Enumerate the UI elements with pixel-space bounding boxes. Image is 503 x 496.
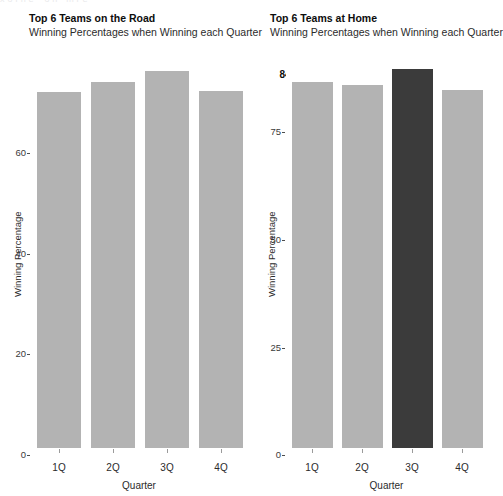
x-axis-title-home: Quarter [286,480,487,491]
x-tick-label-road-1q: 1Q [37,462,81,473]
y-tick-label-home-1: 25 [258,342,281,353]
bar-road-1q[interactable] [37,92,81,448]
bar-home-4q[interactable] [442,90,483,448]
y-tick-label-road-0: 0 [6,449,26,460]
chart-subtitle-home: Winning Percentages when Winning each Qu… [270,25,503,40]
x-tick-label-home-3q: 3Q [391,462,433,473]
x-tick-label-road-3q: 3Q [145,462,189,473]
y-tick-label-home-2: 50 [258,234,281,245]
chart-subtitle-road: Winning Percentages when Winning each Qu… [29,25,262,40]
bar-road-4q[interactable] [199,91,243,448]
x-tick-label-home-4q: 4Q [441,462,483,473]
chart-panel-road: Top 6 Teams on the Road Winning Percenta… [0,7,250,496]
x-tick-label-home-2q: 2Q [341,462,383,473]
bar-series-home [286,51,487,448]
x-tick-label-road-2q: 2Q [91,462,135,473]
plot-area-road [31,51,247,448]
y-tick-mark-home-2 [282,240,285,241]
bar-home-2q[interactable] [342,85,383,448]
y-tick-mark-home-1 [282,348,285,349]
chart-heading-group-home: Top 6 Teams at Home Winning Percentages … [270,11,503,40]
chart-title-road: Top 6 Teams on the Road [29,11,262,25]
y-tick-label-road-1: 20 [6,348,26,359]
bar-home-3q[interactable] [392,69,433,448]
bar-series-road [31,51,247,448]
y-tick-label-road-3: 60 [6,147,26,158]
x-tick-mark-home-1q [312,449,313,453]
y-tick-label-home-3: 75 [258,126,281,137]
bar-home-1q[interactable] [292,82,333,448]
x-tick-mark-home-2q [362,449,363,453]
x-tick-mark-road-2q [113,449,114,453]
y-tick-mark-road-3 [27,153,30,154]
y-tick-mark-home-0 [282,455,285,456]
chart-heading-group-road: Top 6 Teams on the Road Winning Percenta… [29,11,262,40]
y-tick-label-home-0: 0 [258,449,281,460]
x-tick-label-home-1q: 1Q [291,462,333,473]
clipped-header-text: x o f n e _ o n - m r e [0,0,491,2]
y-tick-mark-home-3 [282,132,285,133]
chart-title-home: Top 6 Teams at Home [270,11,503,25]
x-tick-mark-road-1q [59,449,60,453]
y-tick-mark-road-2 [27,254,30,255]
chart-panel-home: Top 6 Teams at Home Winning Percentages … [250,7,491,496]
y-tick-mark-road-1 [27,354,30,355]
x-tick-mark-home-3q [412,449,413,453]
bar-road-3q[interactable] [145,71,189,448]
bar-road-2q[interactable] [91,82,135,448]
x-tick-mark-road-3q [167,449,168,453]
y-axis-title-home: Winning Percentage [266,211,277,297]
x-tick-mark-road-4q [221,449,222,453]
plot-area-home [286,51,487,448]
y-tick-mark-road-0 [27,455,30,456]
x-axis-title-road: Quarter [31,480,247,491]
x-tick-mark-home-4q [462,449,463,453]
chart-grid: Top 6 Teams on the Road Winning Percenta… [0,7,491,496]
y-tick-label-road-2: 40 [6,248,26,259]
x-tick-label-road-4q: 4Q [199,462,243,473]
